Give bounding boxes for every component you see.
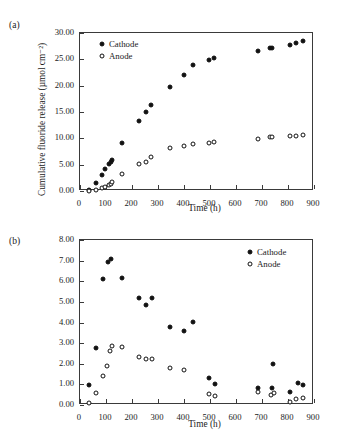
panel-a-legend: Cathode Anode [97, 38, 138, 62]
x-tick-mark [184, 185, 185, 189]
x-tick-label: 700 [255, 412, 268, 422]
y-tick-label: 4.00 [59, 317, 74, 327]
data-point-cathode [182, 72, 187, 77]
data-point-anode [271, 391, 276, 396]
y-tick-mark [80, 343, 84, 344]
data-point-cathode [103, 167, 108, 172]
y-tick-mark [80, 33, 84, 34]
x-tick-label: 400 [177, 198, 190, 208]
panel-a-label: (a) [9, 20, 20, 30]
y-tick-label: 20.00 [55, 80, 74, 90]
y-tick-label: 30.00 [55, 27, 74, 37]
x-tick-label: 200 [125, 198, 138, 208]
data-point-anode [207, 392, 212, 397]
data-point-cathode [300, 383, 305, 388]
data-point-anode [190, 142, 195, 147]
data-point-cathode [168, 84, 173, 89]
data-point-cathode [149, 295, 154, 300]
panel-a: (a) Cumulative fluoride release (µmol cm… [0, 0, 339, 222]
x-tick-label: 300 [151, 198, 164, 208]
data-point-anode [143, 356, 148, 361]
x-tick-label: 600 [229, 198, 242, 208]
data-point-anode [182, 368, 187, 373]
x-tick-mark [288, 185, 289, 189]
x-tick-label: 800 [281, 412, 294, 422]
data-point-anode [300, 396, 305, 401]
y-tick-mark [80, 384, 84, 385]
x-tick-mark [314, 185, 315, 189]
data-point-cathode [190, 319, 195, 324]
legend-label-cathode: Cathode [107, 38, 138, 50]
x-tick-mark [236, 399, 237, 403]
data-point-cathode [100, 172, 105, 177]
data-point-anode [287, 134, 292, 139]
panel-a-x-ticks: 0100200300400500600700800900 [79, 193, 313, 209]
data-point-cathode [137, 119, 142, 124]
y-tick-label: 2.00 [59, 358, 74, 368]
y-tick-mark [80, 165, 84, 166]
data-point-cathode [287, 42, 292, 47]
y-tick-mark [80, 261, 84, 262]
data-point-cathode [108, 256, 113, 261]
x-tick-label: 900 [307, 412, 320, 422]
y-tick-label: 25.00 [55, 53, 74, 63]
y-tick-label: 0.00 [59, 399, 74, 409]
x-tick-label: 400 [177, 412, 190, 422]
x-tick-label: 900 [307, 198, 320, 208]
data-point-cathode [270, 45, 275, 50]
x-tick-mark [184, 399, 185, 403]
data-point-anode [300, 133, 305, 138]
x-tick-label: 100 [99, 412, 112, 422]
y-tick-mark [80, 240, 84, 241]
y-tick-label: 10.00 [55, 132, 74, 142]
data-point-cathode [300, 39, 305, 44]
legend-entry-cathode: Cathode [97, 38, 138, 50]
data-point-anode [211, 140, 216, 145]
data-point-anode [94, 391, 99, 396]
data-point-anode [120, 171, 125, 176]
data-point-anode [109, 343, 114, 348]
data-point-anode [137, 354, 142, 359]
x-tick-label: 300 [151, 412, 164, 422]
x-tick-label: 500 [203, 412, 216, 422]
data-point-cathode [270, 362, 275, 367]
data-point-anode [270, 134, 275, 139]
x-tick-mark [80, 399, 81, 403]
legend-label-anode: Anode [107, 50, 132, 62]
filled-circle-icon [97, 39, 107, 49]
data-point-cathode [148, 103, 153, 108]
open-circle-icon [245, 259, 255, 269]
filled-circle-icon [245, 247, 255, 257]
data-point-cathode [94, 181, 99, 186]
legend-label-cathode: Cathode [255, 246, 286, 258]
data-point-cathode [211, 56, 216, 61]
data-point-anode [100, 373, 105, 378]
x-tick-label: 200 [125, 412, 138, 422]
legend-entry-cathode: Cathode [245, 246, 286, 258]
open-circle-icon [97, 51, 107, 61]
data-point-cathode [168, 325, 173, 330]
x-tick-mark [210, 185, 211, 189]
x-tick-label: 600 [229, 412, 242, 422]
y-tick-mark [80, 281, 84, 282]
legend-entry-anode: Anode [245, 258, 286, 270]
data-point-anode [294, 396, 299, 401]
y-tick-label: 5.00 [59, 296, 74, 306]
x-tick-mark [314, 399, 315, 403]
data-point-anode [86, 401, 91, 406]
data-point-cathode [120, 141, 125, 146]
data-point-anode [94, 187, 99, 192]
x-tick-mark [132, 185, 133, 189]
x-tick-label: 0 [77, 412, 81, 422]
data-point-anode [294, 133, 299, 138]
data-point-anode [255, 136, 260, 141]
panel-b-legend: Cathode Anode [245, 246, 286, 270]
y-tick-mark [80, 138, 84, 139]
y-tick-label: 7.00 [59, 255, 74, 265]
y-tick-label: 6.00 [59, 275, 74, 285]
y-tick-mark [80, 323, 84, 324]
y-tick-mark [80, 405, 84, 406]
panel-b-x-ticks: 0100200300400500600700800900 [79, 407, 313, 423]
data-point-anode [105, 364, 110, 369]
data-point-anode [149, 356, 154, 361]
